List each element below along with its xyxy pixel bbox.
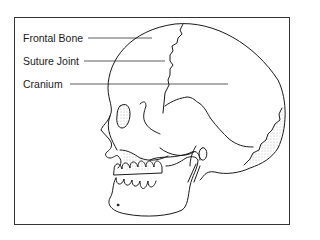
squamous-suture (165, 97, 253, 147)
temporal-line (160, 148, 194, 155)
mastoid-process (199, 148, 207, 160)
maxilla-stipple (123, 150, 151, 170)
lower-teeth (116, 178, 156, 189)
label-frontal-bone: Frontal Bone (23, 32, 83, 44)
label-cranium: Cranium (23, 78, 63, 90)
coronal-suture (163, 24, 183, 113)
cheekbone-edge (140, 102, 160, 134)
eye-orbit (117, 104, 130, 128)
occipital-stipple (244, 108, 284, 165)
label-suture-joint: Suture Joint (23, 55, 79, 67)
mental-foramen (117, 204, 119, 206)
mandible-ramus (190, 146, 196, 166)
